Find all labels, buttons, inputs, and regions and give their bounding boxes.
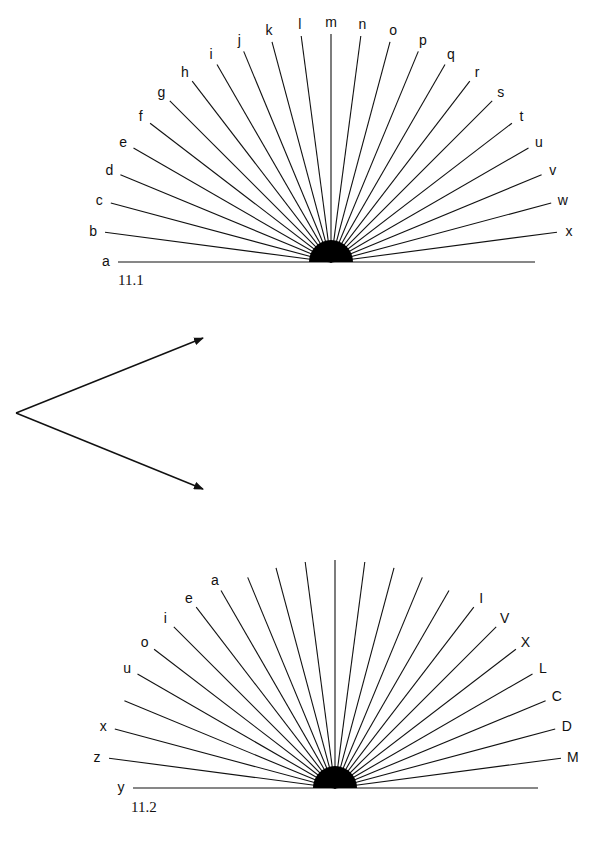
ray-line <box>134 148 332 262</box>
ray-label: g <box>157 84 165 100</box>
ray-line <box>335 701 546 788</box>
ray-label: V <box>500 610 510 626</box>
ray-label: e <box>119 134 127 150</box>
upper-arrow <box>16 338 203 413</box>
ray-line <box>335 674 533 788</box>
ray-label: f <box>139 108 143 124</box>
ray-label: b <box>89 223 97 239</box>
ray-line <box>335 568 394 788</box>
ray-label: x <box>100 718 107 734</box>
ray-label: a <box>102 253 110 269</box>
ray-line <box>174 627 335 788</box>
ray-label: u <box>123 660 131 676</box>
ray-line <box>111 203 331 262</box>
ray-line <box>248 577 335 788</box>
ray-line <box>331 203 551 262</box>
semicircle-hub <box>309 240 353 262</box>
ray-label: L <box>539 660 547 676</box>
ray-line <box>331 51 418 262</box>
ray-line <box>335 627 496 788</box>
ray-label: n <box>358 16 366 32</box>
ray-line <box>331 101 492 262</box>
ray-label: i <box>209 46 212 62</box>
ray-line <box>221 591 335 789</box>
lower-arrow <box>16 413 203 489</box>
sunburst-figure-11-2: yzxuoieaIVXLCDM 11.2 <box>94 560 579 815</box>
ray-label-group: yzxuoieaIVXLCDM <box>94 572 579 795</box>
ray-line <box>335 577 422 788</box>
figure-caption: 11.2 <box>131 799 157 815</box>
ray-line <box>335 591 449 789</box>
ray-label: i <box>164 610 167 626</box>
ray-line <box>124 701 335 788</box>
ray-label: o <box>389 22 397 38</box>
ray-label: p <box>419 32 427 48</box>
ray-label: r <box>475 64 480 80</box>
sunburst-figure-11-1: abcdefghijklmnopqrstuvwx 11.1 <box>89 14 572 288</box>
ray-label: c <box>96 192 103 208</box>
ray-label: h <box>181 64 189 80</box>
ray-label: w <box>557 192 569 208</box>
figure-caption: 11.1 <box>118 272 144 288</box>
ray-label: v <box>549 162 556 178</box>
ray-label: z <box>94 749 101 765</box>
ray-line <box>331 42 390 262</box>
ray-line <box>138 674 336 788</box>
ray-label: a <box>211 572 219 588</box>
ray-line <box>331 175 542 262</box>
ray-line <box>331 148 529 262</box>
ray-line <box>217 65 331 263</box>
ray-group <box>105 34 557 262</box>
ray-label: X <box>521 634 531 650</box>
ray-label: M <box>567 749 579 765</box>
ray-label: l <box>298 16 301 32</box>
ray-label: t <box>519 108 523 124</box>
ray-label: d <box>105 162 113 178</box>
diagram-canvas: abcdefghijklmnopqrstuvwx 11.1 yzxuoieaIV… <box>0 0 613 855</box>
ray-label: y <box>118 779 125 795</box>
ray-line <box>331 65 445 263</box>
ray-line <box>115 729 335 788</box>
ray-label: k <box>265 22 273 38</box>
ray-label: x <box>565 223 572 239</box>
ray-label: q <box>447 46 455 62</box>
ray-line <box>244 51 331 262</box>
ray-line <box>276 568 335 788</box>
ray-label: s <box>497 84 504 100</box>
branching-arrows <box>16 338 203 489</box>
ray-label: e <box>185 590 193 606</box>
ray-label: o <box>141 634 149 650</box>
ray-line <box>272 42 331 262</box>
ray-line <box>170 101 331 262</box>
ray-label: C <box>552 688 562 704</box>
ray-label: u <box>535 134 543 150</box>
ray-label: D <box>562 718 572 734</box>
ray-line <box>335 729 555 788</box>
ray-label: I <box>479 590 483 606</box>
ray-line <box>120 175 331 262</box>
semicircle-hub <box>313 766 357 788</box>
ray-group <box>109 560 561 788</box>
ray-label: m <box>325 14 337 30</box>
ray-label: j <box>237 32 241 48</box>
